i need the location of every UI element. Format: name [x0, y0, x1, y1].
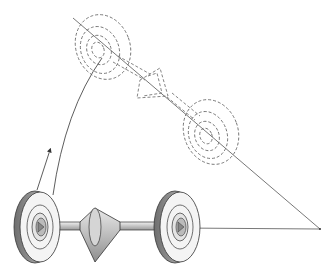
pivot-point: [319, 228, 321, 230]
rotated-upper-wheel: [66, 7, 139, 87]
rotation-arrow: [37, 150, 50, 190]
center-cone: [80, 208, 120, 262]
rotation-arc: [53, 58, 102, 195]
right-wheel: [154, 191, 200, 263]
axle-rotation-diagram: [0, 0, 327, 277]
left-wheel: [14, 191, 60, 263]
rotated-axis-line: [73, 18, 320, 229]
rotated-cone: [113, 56, 200, 120]
